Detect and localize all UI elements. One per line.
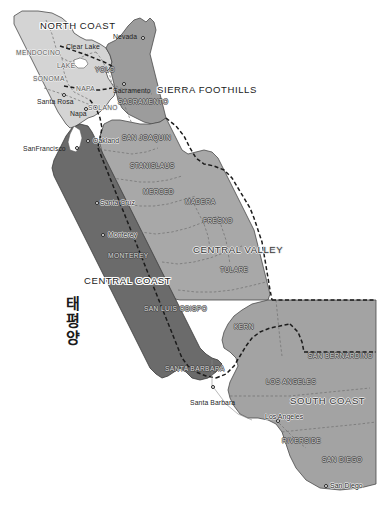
city-dot-santa-barbara-city[interactable]: [211, 385, 215, 389]
city-dot-los-angeles-city[interactable]: [276, 419, 280, 423]
city-dot-san-diego-city[interactable]: [324, 484, 328, 488]
region-shape-north-coast[interactable]: [14, 11, 116, 128]
city-dot-napa-city[interactable]: [84, 107, 88, 111]
city-dot-oakland[interactable]: [86, 139, 90, 143]
city-dot-santa-cruz[interactable]: [95, 201, 99, 205]
city-dot-san-francisco[interactable]: [75, 146, 79, 150]
region-shape-sierra-foothills[interactable]: [106, 18, 166, 124]
california-wine-regions-map: NORTH COASTSIERRA FOOTHILLSCENTRAL VALLE…: [0, 0, 379, 505]
city-dot-santa-rosa[interactable]: [62, 93, 66, 97]
city-dot-nevada-city[interactable]: [141, 36, 145, 40]
city-dot-sacramento-city[interactable]: [122, 82, 126, 86]
ocean-label-pacific: 태평양: [64, 296, 79, 347]
map-graphic: [0, 0, 379, 505]
city-dot-monterey-city[interactable]: [101, 233, 105, 237]
